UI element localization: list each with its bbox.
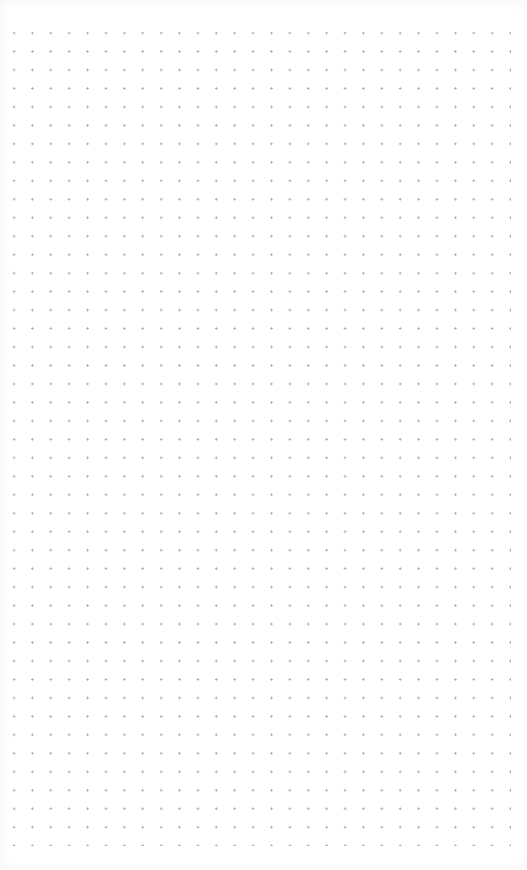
dot-grid-canvas[interactable] (13, 32, 511, 846)
dot-grid-page (0, 0, 527, 870)
